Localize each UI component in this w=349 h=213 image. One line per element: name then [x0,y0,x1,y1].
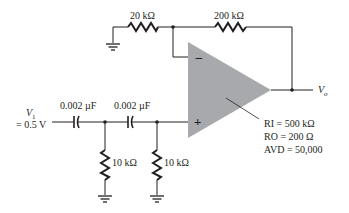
resistor-20k-label: 20 kΩ [130,11,155,21]
resistor-200k [215,23,246,31]
ground-icon [98,196,112,202]
capacitor-1-label: 0.002 µF [60,101,96,111]
capacitor-2-label: 0.002 µF [114,101,150,111]
circuit-diagram [0,0,349,213]
resistor-10k-2-label: 10 kΩ [164,158,189,168]
resistor-10k-2 [153,150,161,180]
inverting-input-symbol: − [195,52,203,66]
input-source-value: = 0.5 V [16,120,46,130]
output-node [290,88,294,92]
op-amp-param-avd: AVD = 50,000 [264,145,323,155]
ground-icon [106,44,120,50]
op-amp-param-ri: RI = 500 kΩ [264,119,315,129]
ground-icon [150,196,164,202]
resistor-200k-label: 200 kΩ [214,11,244,21]
resistor-20k [128,23,158,31]
resistor-10k-1 [101,150,109,180]
op-amp-param-ro: RO = 200 Ω [264,132,313,142]
output-label: Vo [318,85,328,98]
noninverting-input-symbol: + [194,115,201,128]
resistor-10k-1-label: 10 kΩ [112,158,137,168]
